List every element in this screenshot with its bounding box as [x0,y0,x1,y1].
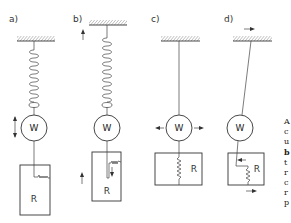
weight-d-label: W [236,123,245,133]
caption-char: r [284,168,288,177]
spring-b [102,38,112,108]
caption-char: t [284,158,288,167]
reservoir-d-label: R [254,164,260,174]
caption-char: c [284,178,289,187]
support-up-arrow-b [81,29,85,40]
caption-char: b [284,147,290,157]
caption-char: A [283,117,290,126]
weight-b-label: W [103,123,112,133]
reservoir-a-label: R [31,194,37,204]
panel-a-label: a) [9,14,18,24]
panel-c: c) W R [151,14,204,185]
support-right-arrow-d [244,27,255,31]
ceiling-d [233,36,272,41]
reservoir-a [20,165,50,215]
string-d [242,41,251,115]
caption-char: u [284,137,289,146]
reservoir-b-label: R [104,186,110,196]
left-arrow-d [237,158,246,162]
ceiling-c [161,36,200,41]
vertical-arrow-a [13,116,17,138]
caption-char: p [284,198,289,207]
reservoir-up-arrow-b [80,172,84,184]
pendulum-diagram: a) W R b) [0,0,291,223]
down-arrow-b [110,167,114,177]
panel-d: d) W R [224,14,272,193]
caption-fragment: A c u b t r c r p [283,117,290,207]
caption-char: c [284,127,289,136]
reservoir-c-label: R [191,164,197,174]
panel-b: b) W R [73,14,127,201]
weight-c-label: W [175,123,184,133]
panel-d-label: d) [224,14,233,24]
panel-b-label: b) [73,14,82,24]
ceiling-a [17,36,55,41]
caption-char: r [284,188,288,197]
reservoir-right-arrow-d [246,189,257,193]
weight-a-label: W [30,123,39,133]
panel-a: a) W R [9,14,55,215]
ceiling-b [89,20,127,25]
panel-c-label: c) [151,14,159,24]
spring-a [29,50,39,108]
